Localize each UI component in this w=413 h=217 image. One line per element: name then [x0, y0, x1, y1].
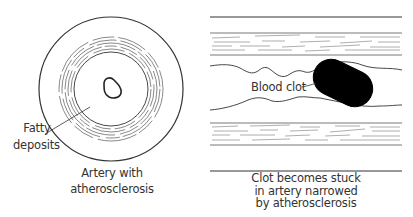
- blood-clot-label: Blood clot: [251, 81, 306, 94]
- fatty-label-line-2: deposits: [13, 139, 55, 152]
- right-caption: Clot becomes stuck in artery narrowed by…: [236, 172, 376, 210]
- narrowed-lumen: [104, 78, 121, 98]
- artery-longitudinal: [210, 17, 402, 171]
- artery-cross-section: [39, 17, 183, 161]
- inner-wall-lower: [210, 97, 402, 110]
- fatty-deposit-rings: [59, 37, 163, 141]
- wall-texture-bottom: [212, 125, 400, 140]
- left-caption-line-1: Artery with: [52, 167, 172, 180]
- fatty-label-line-1: Fatty: [19, 122, 55, 135]
- outer-artery-wall: [39, 17, 183, 161]
- blood-clot-label-text: Blood clot: [251, 80, 306, 94]
- right-caption-line-3: by atherosclerosis: [236, 197, 376, 210]
- right-caption-line-1: Clot becomes stuck: [236, 172, 376, 185]
- inner-wall-upper: [210, 62, 402, 77]
- fatty-deposits-label: Fatty deposits: [13, 122, 55, 151]
- left-caption: Artery with atherosclerosis: [52, 167, 172, 195]
- inner-wall: [74, 52, 148, 126]
- wall-texture-top: [212, 35, 400, 51]
- left-caption-line-2: atherosclerosis: [52, 183, 172, 196]
